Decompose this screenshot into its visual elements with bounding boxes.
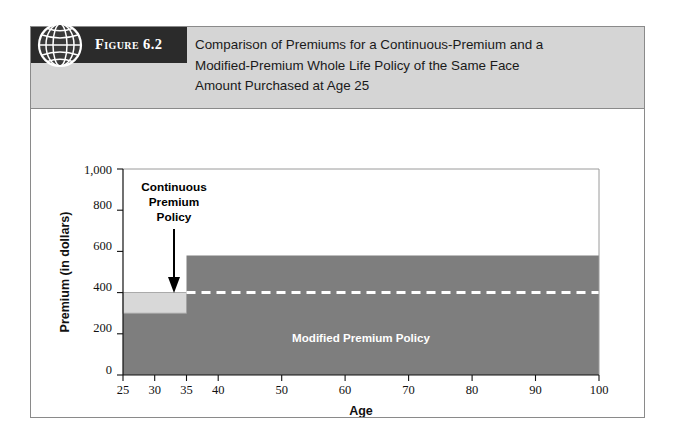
x-tick-label-35: 35 xyxy=(180,383,193,397)
figure-number-label: Figure 6.2 xyxy=(95,36,162,53)
figure-container: Figure 6.2 Comparison of Premiums for a … xyxy=(30,26,645,418)
x-tick-label-30: 30 xyxy=(148,383,161,397)
figure-title-line-1: Comparison of Premiums for a Continuous-… xyxy=(195,35,630,56)
figure-title-line-2: Modified-Premium Whole Life Policy of th… xyxy=(195,56,630,77)
y-tick-label-400: 400 xyxy=(93,280,112,294)
x-tick-label-70: 70 xyxy=(402,383,415,397)
annotation-continuous-line-2: Premium xyxy=(149,195,199,209)
annotation-continuous-line-1: Continuous xyxy=(141,180,207,194)
x-axis-ticks xyxy=(123,375,599,381)
x-axis-title: Age xyxy=(349,404,373,417)
y-tick-label-600: 600 xyxy=(93,239,112,253)
x-tick-label-90: 90 xyxy=(529,383,542,397)
x-tick-label-100: 100 xyxy=(590,383,609,397)
y-tick-label-0: 0 xyxy=(106,363,112,377)
series-modified-premium-area xyxy=(123,256,599,376)
x-tick-label-60: 60 xyxy=(339,383,352,397)
y-tick-label-200: 200 xyxy=(93,321,112,335)
figure-title: Comparison of Premiums for a Continuous-… xyxy=(195,35,630,97)
x-tick-label-40: 40 xyxy=(212,383,225,397)
x-tick-label-80: 80 xyxy=(466,383,479,397)
y-axis-ticks xyxy=(117,169,123,375)
globe-grid-icon xyxy=(34,19,86,71)
premium-comparison-chart: 0 200 400 600 800 1,000 Premium (in doll… xyxy=(31,109,644,417)
chart-area: 0 200 400 600 800 1,000 Premium (in doll… xyxy=(31,109,644,417)
series-continuous-premium-gap xyxy=(123,293,187,314)
x-tick-label-50: 50 xyxy=(275,383,288,397)
series-label-modified-premium: Modified Premium Policy xyxy=(292,331,430,344)
x-tick-label-25: 25 xyxy=(117,383,130,397)
y-axis-title: Premium (in dollars) xyxy=(58,212,72,333)
figure-title-line-3: Amount Purchased at Age 25 xyxy=(195,76,630,97)
annotation-continuous-line-3: Policy xyxy=(157,210,192,224)
y-tick-label-1000: 1,000 xyxy=(84,163,112,177)
y-tick-label-800: 800 xyxy=(93,198,112,212)
figure-header: Figure 6.2 Comparison of Premiums for a … xyxy=(31,27,644,109)
